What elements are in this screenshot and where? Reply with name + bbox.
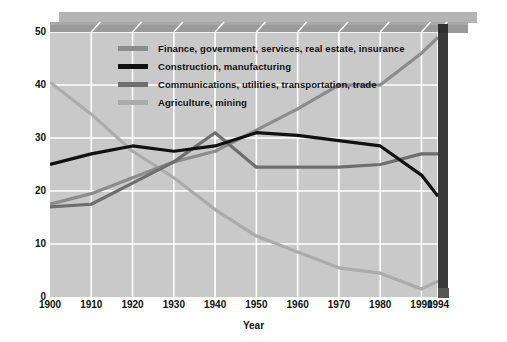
x-tick-label: 1970	[316, 299, 362, 310]
chart-3d-right-wall	[438, 33, 448, 297]
x-tick-label: 1994	[415, 299, 461, 310]
legend-item: Construction, manufacturing	[118, 59, 405, 73]
legend-label: Construction, manufacturing	[158, 61, 291, 72]
x-tick-label: 1900	[27, 299, 73, 310]
legend-item: Agriculture, mining	[118, 95, 405, 109]
y-tick-label: 10	[20, 238, 46, 249]
y-axis-tick-labels: 01020304050	[16, 0, 46, 342]
x-tick-label: 1940	[192, 299, 238, 310]
x-tick-label: 1910	[68, 299, 114, 310]
chart-3d-right-wall-bottom	[438, 288, 449, 298]
legend-label: Finance, government, services, real esta…	[158, 43, 405, 54]
legend-item: Communications, utilities, transportatio…	[118, 77, 405, 91]
x-tick-label: 1980	[357, 299, 403, 310]
x-tick-label: 1960	[275, 299, 321, 310]
x-tick-label: 1950	[233, 299, 279, 310]
legend-label: Agriculture, mining	[158, 97, 247, 108]
chart-legend: Finance, government, services, real esta…	[118, 41, 405, 113]
legend-swatch-2	[118, 64, 148, 69]
y-tick-label: 40	[20, 79, 46, 90]
chart-3d-top-face-highlight	[50, 22, 468, 25]
x-axis-tick-labels: 1900191019201930194019501960197019801990…	[0, 299, 507, 315]
y-tick-label: 30	[20, 132, 46, 143]
legend-swatch-3	[118, 82, 148, 87]
legend-label: Communications, utilities, transportatio…	[158, 79, 377, 90]
x-tick-label: 1920	[110, 299, 156, 310]
legend-swatch-4	[118, 100, 148, 105]
y-tick-label: 50	[20, 26, 46, 37]
y-tick-label: 20	[20, 185, 46, 196]
legend-swatch-1	[118, 46, 148, 51]
x-axis-title: Year	[0, 320, 507, 331]
chart-figure: 01020304050 1900191019201930194019501960…	[0, 0, 507, 342]
x-tick-label: 1930	[151, 299, 197, 310]
legend-item: Finance, government, services, real esta…	[118, 41, 405, 55]
